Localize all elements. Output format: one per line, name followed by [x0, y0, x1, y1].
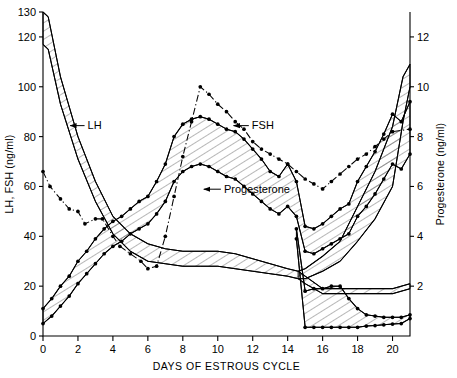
data-point	[391, 130, 395, 134]
data-point	[129, 252, 133, 256]
data-point	[338, 207, 342, 211]
data-point	[321, 287, 325, 291]
y-axis-tick-label-right: 2	[417, 280, 423, 292]
data-point	[102, 252, 106, 256]
data-point	[207, 165, 211, 169]
y-axis-tick-label-right: 8	[417, 131, 423, 143]
data-point	[347, 202, 351, 206]
data-point	[139, 259, 143, 263]
data-point	[356, 157, 360, 161]
data-point	[120, 215, 124, 219]
data-point	[373, 150, 377, 154]
data-point	[364, 205, 368, 209]
data-point	[364, 165, 368, 169]
data-point	[286, 162, 290, 166]
data-point	[155, 264, 159, 268]
y-axis-tick-label-left: 130	[18, 6, 36, 18]
data-point	[242, 137, 246, 141]
x-axis-tick-label: 6	[145, 343, 151, 355]
chart-canvas: 0204060801001201302468101202468101214161…	[0, 0, 457, 378]
data-point	[338, 325, 342, 329]
data-point	[312, 227, 316, 231]
y-axis-tick-label-left: 80	[24, 131, 36, 143]
data-point	[268, 207, 272, 211]
y-axis-tick-label-right: 12	[417, 31, 429, 43]
data-point	[181, 170, 185, 174]
x-axis-tick-label: 8	[180, 343, 186, 355]
data-point	[146, 267, 150, 271]
x-axis-tick-label: 10	[212, 343, 224, 355]
x-axis-tick-label: 12	[247, 343, 259, 355]
data-point	[347, 297, 351, 301]
data-point	[338, 237, 342, 241]
data-point	[172, 195, 176, 199]
y-axis-title-right: Progesterone (ng/ml)	[434, 123, 446, 226]
x-axis-tick-label: 14	[282, 343, 294, 355]
data-point	[338, 172, 342, 176]
data-point	[277, 175, 281, 179]
data-point	[67, 274, 71, 278]
annotation-label-lh: LH	[88, 119, 102, 131]
data-point	[76, 282, 80, 286]
data-point	[286, 205, 290, 209]
annotation-label-fsh: FSH	[252, 119, 274, 131]
data-point	[85, 249, 89, 253]
data-point	[207, 117, 211, 121]
data-point	[137, 227, 141, 231]
data-point	[101, 217, 105, 221]
data-point	[102, 227, 106, 231]
data-point	[277, 157, 281, 161]
y-axis-tick-label-left: 60	[24, 180, 36, 192]
data-point	[330, 215, 334, 219]
data-point	[347, 165, 351, 169]
data-point	[321, 187, 325, 191]
data-point	[356, 307, 360, 311]
data-point	[364, 313, 368, 317]
x-axis-tick-label: 4	[110, 343, 116, 355]
data-point	[94, 237, 98, 241]
data-point	[364, 152, 368, 156]
data-point	[59, 197, 63, 201]
data-point	[163, 200, 167, 204]
data-point	[94, 217, 98, 221]
data-point	[303, 289, 307, 293]
data-point	[163, 162, 167, 166]
data-point	[303, 177, 307, 181]
data-point	[373, 324, 377, 328]
data-point	[129, 232, 133, 236]
data-point	[225, 127, 229, 131]
data-point	[373, 145, 377, 149]
data-point	[338, 284, 342, 288]
data-point	[111, 244, 115, 248]
estrous-cycle-hormone-chart: 0204060801001201302468101202468101214161…	[0, 0, 457, 378]
data-point	[312, 325, 316, 329]
data-point	[120, 239, 124, 243]
data-point	[391, 322, 395, 326]
data-point	[303, 325, 307, 329]
data-point	[198, 115, 202, 119]
data-point	[207, 92, 211, 96]
x-axis-title: DAYS OF ESTROUS CYCLE	[153, 360, 300, 372]
x-axis-tick-label: 20	[386, 343, 398, 355]
data-point	[233, 120, 237, 124]
data-point	[251, 147, 255, 151]
data-point	[242, 127, 246, 131]
y-axis-tick-label-left: 40	[24, 230, 36, 242]
data-point	[59, 284, 63, 288]
data-point	[391, 162, 395, 166]
data-point	[382, 177, 386, 181]
data-point	[382, 137, 386, 141]
data-point	[233, 130, 237, 134]
data-point	[268, 170, 272, 174]
data-point	[277, 212, 281, 216]
data-point	[190, 117, 194, 121]
data-point	[295, 215, 299, 219]
data-point	[50, 297, 54, 301]
x-axis-tick-label: 0	[40, 343, 46, 355]
data-point	[391, 315, 395, 319]
data-point	[295, 170, 299, 174]
data-point	[163, 234, 167, 238]
data-point	[225, 110, 229, 114]
data-point	[399, 315, 403, 319]
data-point	[364, 324, 368, 328]
